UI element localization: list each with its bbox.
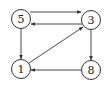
directed-graph: 5 3 1 8 — [0, 0, 109, 87]
node-5-label: 5 — [18, 13, 25, 26]
node-1: 1 — [12, 60, 31, 79]
edge-1-to-3 — [29, 27, 83, 63]
node-3-label: 3 — [88, 14, 95, 27]
node-1-label: 1 — [18, 63, 25, 76]
node-3: 3 — [82, 11, 101, 30]
node-8: 8 — [82, 61, 101, 80]
node-5: 5 — [12, 10, 31, 29]
node-8-label: 8 — [88, 64, 95, 77]
